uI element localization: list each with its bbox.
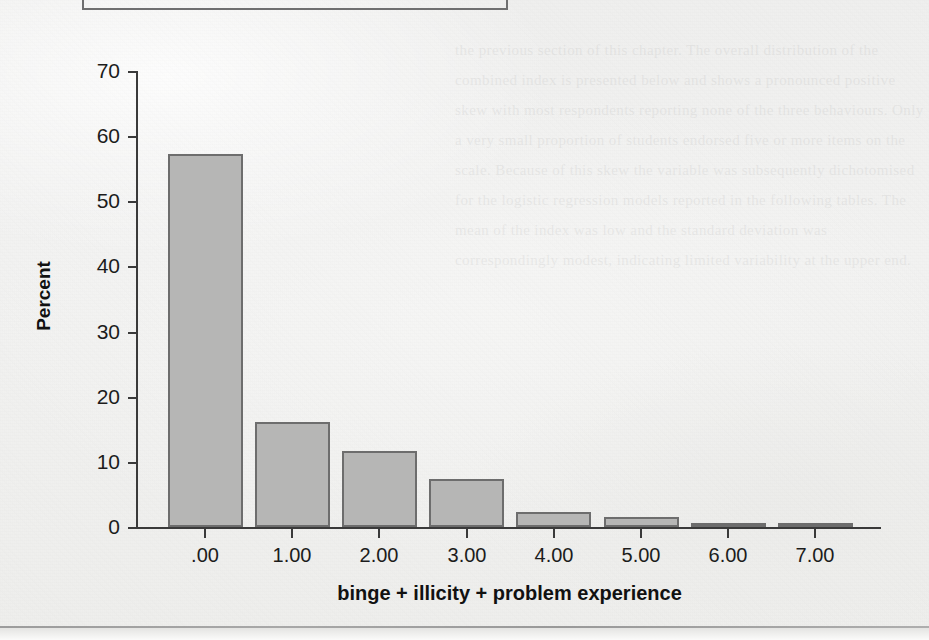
x-axis-tick [466, 529, 468, 538]
histogram-bar [429, 479, 504, 527]
histogram-bar [255, 422, 330, 527]
y-axis-tick-label: 20 [52, 386, 120, 407]
y-axis-tick-label: 70 [52, 60, 120, 81]
page-bottom-shade [0, 628, 929, 640]
x-axis-tick [378, 529, 380, 538]
y-axis-tick [128, 71, 137, 73]
y-axis-tick [128, 136, 137, 138]
x-axis-tick [291, 529, 293, 538]
y-axis-tick-label: 50 [52, 190, 120, 211]
y-axis-tick-label: 60 [52, 125, 120, 146]
y-axis-tick-label: 0 [52, 516, 120, 537]
x-axis-tick [640, 529, 642, 538]
y-axis-tick-label: 40 [52, 255, 120, 276]
histogram-chart: Percent binge + illicity + problem exper… [0, 0, 929, 640]
y-axis-tick [128, 462, 137, 464]
y-axis-tick [128, 266, 137, 268]
x-axis-tick-label: 7.00 [770, 545, 860, 565]
x-axis-tick-label: 2.00 [334, 545, 424, 565]
x-axis-line [129, 527, 881, 529]
histogram-bar [604, 517, 679, 527]
x-axis-tick-label: 1.00 [247, 545, 337, 565]
x-axis-tick-label: 3.00 [422, 545, 512, 565]
histogram-bar [168, 154, 243, 527]
x-axis-tick [814, 529, 816, 538]
x-axis-tick-label: 4.00 [509, 545, 599, 565]
histogram-bar [342, 451, 417, 527]
histogram-bar [516, 512, 591, 527]
x-axis-tick [553, 529, 555, 538]
y-axis-tick [128, 397, 137, 399]
x-axis-title: binge + illicity + problem experience [137, 582, 882, 605]
x-axis-tick-label: 5.00 [596, 545, 686, 565]
y-axis-tick [128, 201, 137, 203]
x-axis-tick-label: .00 [160, 545, 250, 565]
y-axis-tick [128, 332, 137, 334]
histogram-bar [691, 523, 766, 527]
x-axis-tick [727, 529, 729, 538]
scanned-page: the previous section of this chapter. Th… [0, 0, 929, 640]
y-axis-line [136, 71, 138, 527]
histogram-bar [778, 523, 853, 527]
x-axis-tick-label: 6.00 [683, 545, 773, 565]
y-axis-tick [128, 527, 137, 529]
y-axis-tick-label: 30 [52, 321, 120, 342]
y-axis-tick-label: 10 [52, 451, 120, 472]
x-axis-tick [204, 529, 206, 538]
